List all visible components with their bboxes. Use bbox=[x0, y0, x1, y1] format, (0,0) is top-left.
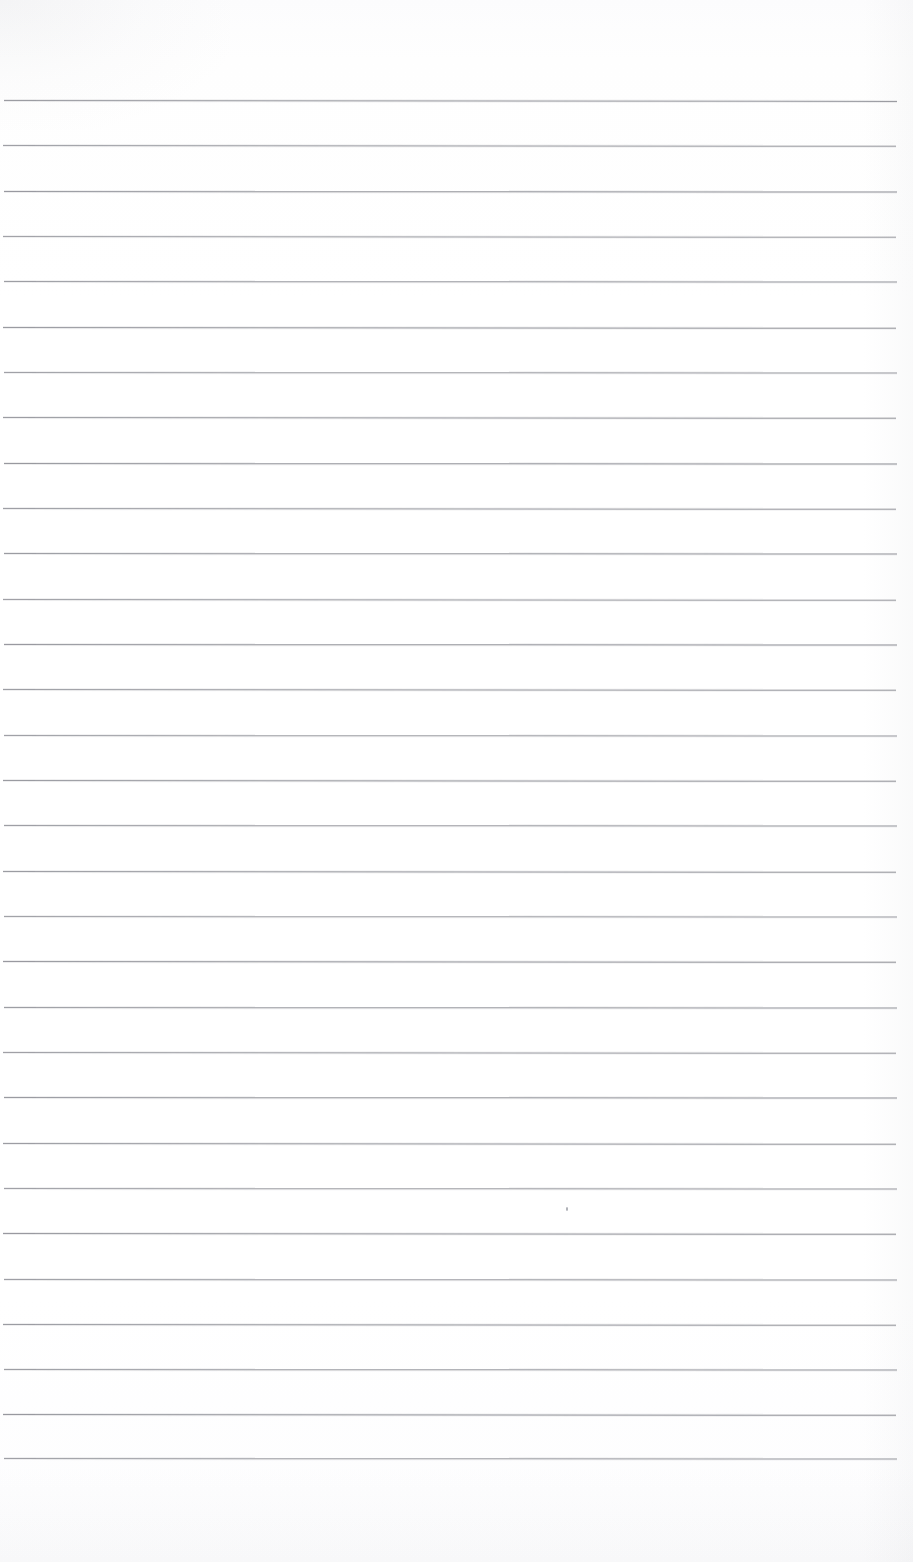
rule-line bbox=[3, 508, 896, 510]
rule-line bbox=[3, 1324, 896, 1326]
rule-line bbox=[4, 372, 897, 373]
rule-line bbox=[4, 1279, 897, 1280]
rule-line bbox=[4, 1097, 897, 1098]
rule-line bbox=[4, 1458, 897, 1459]
rule-line bbox=[4, 553, 897, 554]
rule-line bbox=[4, 735, 897, 736]
rule-line bbox=[3, 1414, 896, 1416]
rule-line bbox=[3, 871, 896, 873]
rule-line bbox=[3, 1052, 896, 1054]
rule-line bbox=[3, 599, 896, 601]
rule-line bbox=[4, 1188, 897, 1190]
rule-line bbox=[3, 961, 896, 963]
rule-line bbox=[3, 145, 896, 147]
scanned-page bbox=[0, 0, 913, 1562]
rule-line bbox=[4, 1369, 897, 1371]
rule-line bbox=[3, 236, 896, 238]
rule-line bbox=[3, 417, 896, 419]
rule-line bbox=[4, 1007, 897, 1009]
rule-line bbox=[3, 780, 896, 782]
rule-line bbox=[3, 1233, 896, 1235]
ruled-lines-layer bbox=[0, 0, 913, 1562]
rule-line bbox=[4, 463, 897, 465]
ink-speck bbox=[566, 1207, 568, 1211]
rule-line bbox=[4, 916, 897, 917]
rule-line bbox=[3, 689, 896, 691]
rule-line bbox=[4, 191, 897, 193]
rule-line bbox=[4, 644, 897, 646]
rule-line bbox=[4, 100, 897, 102]
rule-line bbox=[3, 1143, 896, 1145]
rule-line bbox=[3, 327, 896, 329]
rule-line bbox=[4, 281, 897, 283]
rule-line bbox=[4, 825, 897, 827]
